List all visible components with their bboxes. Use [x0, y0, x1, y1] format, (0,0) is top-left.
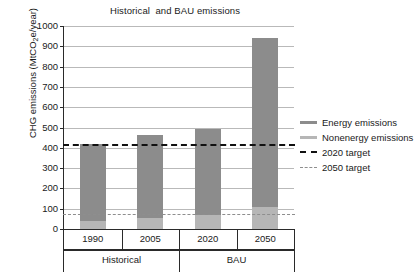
x-axis-tick-label-1990: 1990	[64, 233, 122, 244]
bar-2050[interactable]	[252, 26, 278, 229]
bar-1990[interactable]	[80, 26, 106, 229]
y-axis-tick-mark	[60, 148, 63, 149]
legend-item-nonenergy-emissions[interactable]: Nonenergy emissions	[300, 130, 418, 145]
x-axis-category-row: 1990200520202050	[63, 230, 295, 250]
bar-2005[interactable]	[137, 26, 163, 229]
y-axis-tick-label: 800	[18, 61, 58, 72]
bar-segment	[195, 129, 221, 215]
y-axis-tick-mark	[60, 67, 63, 68]
reference-line-2050-target	[63, 214, 295, 215]
y-axis-tick-label: 500	[18, 122, 58, 133]
y-axis-tick-mark	[60, 107, 63, 108]
y-axis-tick-label: 700	[18, 81, 58, 92]
bar-2020[interactable]	[195, 26, 221, 229]
y-axis-tick-label: 1000	[18, 20, 58, 31]
x-axis-edge	[63, 230, 64, 250]
legend-swatch-icon	[300, 145, 317, 160]
legend-label: Nonenergy emissions	[322, 133, 413, 143]
x-axis-tick-label-2050: 2050	[237, 233, 295, 244]
x-axis-edge	[294, 230, 295, 250]
y-axis-tick-mark	[60, 128, 63, 129]
bar-segment	[195, 215, 221, 229]
x-axis-group-label-historical: Historical	[64, 254, 179, 265]
emissions-chart: Historical and BAU emissions CHG emissio…	[0, 0, 420, 279]
y-axis-tick-label: 900	[18, 40, 58, 51]
legend-item-energy-emissions[interactable]: Energy emissions	[300, 115, 418, 130]
bar-segment	[137, 218, 163, 229]
y-axis-tick-mark	[60, 26, 63, 27]
y-axis-tick-label: 400	[18, 142, 58, 153]
x-axis-group-label-bau: BAU	[179, 254, 294, 265]
y-axis-tick-label: 0	[18, 223, 58, 234]
y-axis-tick-label: 300	[18, 162, 58, 173]
x-axis-separator	[122, 230, 123, 250]
legend-item-2020-target[interactable]: 2020 target	[300, 145, 418, 160]
x-axis-tick-label-2005: 2005	[122, 233, 180, 244]
legend-label: Energy emissions	[322, 118, 397, 128]
legend-label: 2050 target	[322, 163, 370, 173]
x-axis: 1990200520202050 HistoricalBAU	[63, 230, 295, 279]
bar-segment	[80, 221, 106, 229]
legend-swatch-icon	[300, 160, 317, 175]
legend-swatch-icon	[300, 115, 317, 130]
y-axis-tick-label: 200	[18, 182, 58, 193]
legend-item-2050-target[interactable]: 2050 target	[300, 160, 418, 175]
x-axis-group-row: HistoricalBAU	[63, 250, 295, 272]
plot-area	[64, 26, 294, 229]
chart-legend: Energy emissionsNonenergy emissions2020 …	[300, 115, 418, 175]
y-axis-tick-mark	[60, 87, 63, 88]
y-axis-tick-mark	[60, 46, 63, 47]
reference-line-2020-target	[63, 144, 295, 146]
bar-segment	[252, 38, 278, 206]
y-axis-tick-label: 600	[18, 101, 58, 112]
x-axis-separator	[237, 230, 238, 250]
y-axis-tick-label: 100	[18, 203, 58, 214]
y-axis-tick-mark	[60, 209, 63, 210]
bar-segment	[137, 135, 163, 218]
chart-title: Historical and BAU emissions	[60, 5, 290, 16]
x-axis-separator	[179, 230, 180, 250]
legend-swatch-icon	[300, 130, 317, 145]
legend-label: 2020 target	[322, 148, 370, 158]
x-axis-group-edge	[294, 250, 295, 272]
x-axis-tick-label-2020: 2020	[179, 233, 237, 244]
y-axis-tick-mark	[60, 168, 63, 169]
bar-segment	[80, 144, 106, 221]
bar-segment	[252, 207, 278, 229]
y-axis-tick-mark	[60, 188, 63, 189]
x-axis-group-edge	[63, 250, 64, 272]
